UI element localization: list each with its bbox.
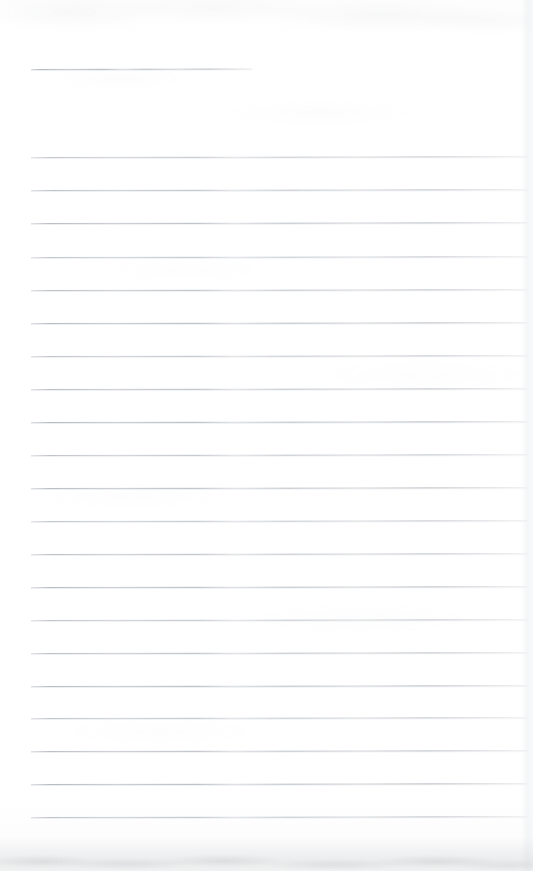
ruled-line — [31, 189, 527, 191]
ruled-line — [31, 355, 527, 357]
scan-bottom-edge — [0, 837, 533, 871]
ruled-line — [31, 783, 527, 785]
ruled-line — [31, 289, 527, 291]
ruled-line — [31, 750, 527, 752]
ruled-line — [31, 685, 527, 687]
ruled-line — [31, 388, 527, 390]
ruled-line — [31, 421, 527, 423]
scanned-page — [0, 0, 533, 871]
ruled-line — [31, 652, 527, 654]
ruled-line — [31, 586, 527, 588]
ruled-line — [31, 487, 527, 489]
ruled-line — [31, 156, 527, 158]
ruled-line — [31, 553, 527, 555]
ruled-line — [31, 322, 527, 324]
ruled-line — [31, 717, 527, 719]
paper-background — [0, 0, 533, 871]
ruled-line — [31, 256, 527, 258]
scan-noise-overlay — [0, 0, 533, 871]
ruled-line — [31, 520, 527, 522]
ruled-line — [31, 816, 527, 818]
ruled-line — [31, 222, 527, 224]
page-edge-right — [521, 0, 533, 871]
ruled-line — [31, 454, 527, 456]
scan-bottom-edge-mottle — [0, 837, 533, 871]
ruled-line — [31, 619, 527, 621]
header-rule — [31, 68, 252, 70]
